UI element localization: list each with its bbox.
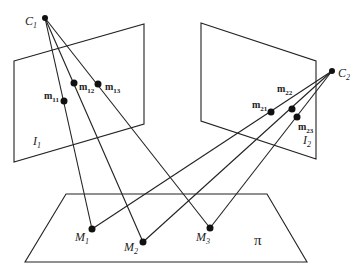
label-M1: M1 — [74, 230, 89, 246]
label-c2: C2 — [338, 66, 350, 82]
label-m23: m23 — [298, 121, 314, 135]
label-i2: I2 — [302, 133, 311, 149]
ray-c1-m2 — [45, 18, 143, 242]
ray-c2-m1 — [92, 71, 332, 229]
label-m11: m11 — [44, 90, 59, 104]
ray-c2-m2 — [143, 71, 332, 242]
point-M2 — [140, 239, 147, 246]
point-m22 — [289, 106, 296, 113]
ray-c1-m3 — [45, 18, 210, 228]
label-m13: m13 — [105, 81, 121, 95]
label-i1: I1 — [32, 134, 41, 150]
two-view-homography-diagram: C1 C2 I1 I2 m11 m12 m13 m21 m22 m23 M1 M… — [0, 0, 360, 276]
label-pi: π — [254, 232, 262, 248]
point-m12 — [71, 80, 78, 87]
ray-c2-m3 — [210, 71, 332, 228]
point-m11 — [61, 98, 68, 105]
label-m21: m21 — [252, 99, 268, 113]
point-m23 — [294, 114, 301, 121]
image-plane-i2 — [201, 23, 316, 159]
point-M1 — [89, 226, 96, 233]
point-M3 — [207, 225, 214, 232]
point-m21 — [268, 109, 275, 116]
ray-c1-m1 — [45, 18, 92, 229]
camera-center-c1 — [42, 15, 48, 21]
label-c1: C1 — [25, 14, 37, 30]
diagram-canvas: C1 C2 I1 I2 m11 m12 m13 m21 m22 m23 M1 M… — [0, 0, 360, 276]
label-m12: m12 — [79, 81, 95, 95]
label-m22: m22 — [277, 83, 293, 97]
point-m13 — [95, 81, 102, 88]
label-M2: M2 — [123, 240, 138, 256]
camera-center-c2 — [329, 68, 335, 74]
label-M3: M3 — [195, 230, 210, 246]
world-plane-pi — [25, 194, 307, 262]
